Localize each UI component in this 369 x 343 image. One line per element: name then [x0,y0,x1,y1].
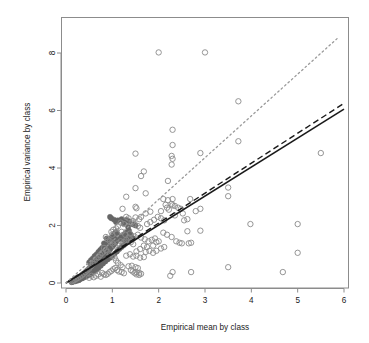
y-tick-label: 2 [48,223,57,228]
x-tick-label: 6 [342,296,347,305]
x-tick-label: 0 [64,296,69,305]
x-tick-label: 1 [110,296,115,305]
data-point [107,214,112,219]
chart-figure: 0123456 02468 Empirical mean by class Em… [0,0,369,343]
y-tick-label: 6 [48,108,57,113]
x-tick-label: 5 [295,296,300,305]
y-tick-label: 4 [48,165,57,170]
y-tick-label: 8 [48,50,57,55]
x-tick-label: 2 [156,296,161,305]
y-axis-title: Empirical variance by class [23,103,32,202]
x-tick-label: 4 [249,296,254,305]
x-tick-label: 3 [203,296,208,305]
x-axis-title: Empirical mean by class [161,323,249,332]
scatter-plot: 0123456 02468 Empirical mean by class Em… [0,0,369,343]
y-tick-label: 0 [48,280,57,285]
